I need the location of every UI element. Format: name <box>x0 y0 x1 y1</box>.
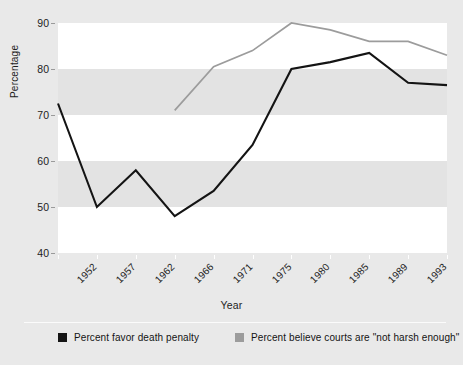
x-axis-title: Year <box>0 299 463 311</box>
legend-label-2: Percent believe courts are "not harsh en… <box>251 332 459 343</box>
legend-item-1: Percent favor death penalty <box>58 332 199 343</box>
y-tick-label-80: 80 <box>37 64 49 75</box>
x-tick-label-1971: 1971 <box>230 261 254 285</box>
x-tick-mark-1952 <box>58 255 59 259</box>
chart-figure: 908070605040 Percentage 1952195719621966… <box>0 0 463 365</box>
x-tick-mark-1966 <box>175 255 176 259</box>
legend-swatch-2 <box>235 333 244 342</box>
x-tick-mark-1996 <box>447 255 448 259</box>
legend-label-1: Percent favor death penalty <box>74 332 199 343</box>
y-axis-title: Percentage <box>9 45 20 98</box>
y-tick-label-40: 40 <box>37 248 49 259</box>
line-series-1 <box>58 53 447 216</box>
x-tick-mark-1985 <box>330 255 331 259</box>
legend-swatch-1 <box>58 333 67 342</box>
plot-area <box>58 23 447 253</box>
y-tick-label-50: 50 <box>37 202 49 213</box>
x-tick-mark-1980 <box>291 255 292 259</box>
x-tick-label-1975: 1975 <box>269 261 293 285</box>
legend-divider <box>24 322 446 323</box>
x-tick-label-1957: 1957 <box>114 261 138 285</box>
x-tick-label-1966: 1966 <box>191 261 215 285</box>
y-tick-mark-70 <box>51 115 55 116</box>
x-tick-label-1962: 1962 <box>153 261 177 285</box>
x-tick-label-1993: 1993 <box>425 261 449 285</box>
x-tick-mark-1989 <box>369 255 370 259</box>
legend-item-2: Percent believe courts are "not harsh en… <box>235 332 459 343</box>
x-tick-label-1952: 1952 <box>75 261 99 285</box>
y-tick-label-90: 90 <box>37 18 49 29</box>
y-tick-label-60: 60 <box>37 156 49 167</box>
x-tick-mark-1993 <box>408 255 409 259</box>
x-tick-label-1989: 1989 <box>386 261 410 285</box>
x-tick-mark-1971 <box>214 255 215 259</box>
y-tick-mark-90 <box>51 23 55 24</box>
y-tick-mark-40 <box>51 253 55 254</box>
series-lines <box>58 23 447 253</box>
x-tick-label-1985: 1985 <box>347 261 371 285</box>
y-tick-mark-50 <box>51 207 55 208</box>
x-tick-mark-1975 <box>253 255 254 259</box>
chart-legend: Percent favor death penaltyPercent belie… <box>24 332 446 343</box>
x-tick-label-1980: 1980 <box>308 261 332 285</box>
x-axis: 1952195719621966197119751980198519891993… <box>58 255 447 295</box>
y-tick-mark-80 <box>51 69 55 70</box>
y-tick-mark-60 <box>51 161 55 162</box>
x-tick-mark-1962 <box>136 255 137 259</box>
y-tick-label-70: 70 <box>37 110 49 121</box>
x-tick-mark-1957 <box>97 255 98 259</box>
line-series-2 <box>175 23 447 110</box>
y-axis: 908070605040 <box>0 0 58 276</box>
